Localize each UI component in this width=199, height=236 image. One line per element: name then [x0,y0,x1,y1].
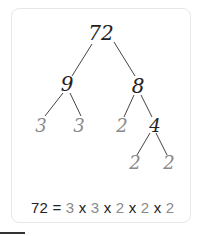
divider-fragment [0,232,25,234]
equation-lhs: 72 [31,199,48,216]
times-2: x [104,199,112,216]
factor-4: 2 [141,199,150,216]
branch-8-4 [141,95,152,117]
factor-2: 3 [91,199,100,216]
branch-8-2 [124,95,134,117]
times-3: x [129,199,137,216]
branch-72-8 [114,42,135,76]
node-2-from-4-left: 2 [128,152,140,173]
node-3-left: 3 [35,115,46,136]
node-9: 9 [61,72,74,96]
factor-1: 3 [66,199,75,216]
node-8: 8 [132,74,145,98]
branch-9-3a [45,93,63,116]
tree-branches [45,42,167,155]
equals-sign: = [52,199,61,216]
branch-9-3b [70,93,81,116]
factor-3: 2 [116,199,125,216]
branch-72-9 [72,44,92,76]
node-4: 4 [148,115,160,136]
times-1: x [79,199,87,216]
node-3-right: 3 [73,115,84,136]
node-72: 72 [88,21,113,45]
node-2-from-8: 2 [115,115,127,136]
factor-5: 2 [166,199,175,216]
prime-factorization-equation: 72 = 3 x 3 x 2 x 2 x 2 [31,199,174,216]
times-4: x [154,199,162,216]
node-2-from-4-right: 2 [162,152,174,173]
